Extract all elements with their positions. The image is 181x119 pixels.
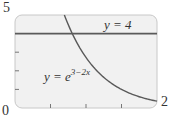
- origin-label: 0: [2, 104, 9, 118]
- label-y-equals-4: y = 4: [104, 18, 132, 31]
- label-exponential-exponent: 3−2x: [71, 67, 90, 77]
- label-exponential-base: y = e: [44, 69, 71, 84]
- x-axis-max-label: 2: [161, 95, 168, 109]
- y-axis-max-label: 5: [3, 1, 10, 15]
- plot-frame: [15, 15, 157, 108]
- label-exponential-curve: y = e3−2x: [44, 68, 90, 83]
- chart-canvas: [0, 0, 181, 119]
